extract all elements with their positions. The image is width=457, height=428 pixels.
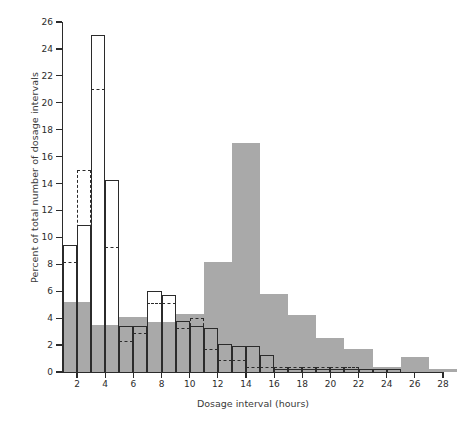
y-tick-mark (56, 183, 62, 184)
y-tick-mark (56, 48, 62, 49)
bar-gray (63, 302, 91, 372)
y-tick-label: 0 (20, 367, 53, 377)
bar-solid-outline (63, 245, 77, 372)
y-tick-label: 16 (20, 152, 53, 162)
bar-solid-outline (162, 295, 176, 372)
y-axis-line (62, 22, 63, 373)
bar-solid-outline (105, 180, 119, 373)
y-tick-mark (56, 237, 62, 238)
y-tick-label: 4 (20, 313, 53, 323)
y-tick-mark (56, 156, 62, 157)
x-tick-mark (274, 373, 275, 378)
bar-solid-outline (91, 35, 105, 372)
x-tick-label: 4 (93, 379, 117, 389)
y-tick-label: 8 (20, 259, 53, 269)
bar-solid-outline (77, 225, 91, 372)
x-tick-mark (161, 373, 162, 378)
bar-solid-outline (190, 326, 204, 372)
x-tick-mark (302, 373, 303, 378)
y-tick-mark (56, 129, 62, 130)
bar-dashed-outline (119, 341, 133, 372)
y-tick-label: 20 (20, 98, 53, 108)
x-tick-label: 10 (178, 379, 202, 389)
y-tick-mark (56, 21, 62, 22)
y-tick-label: 12 (20, 205, 53, 215)
x-tick-label: 24 (375, 379, 399, 389)
bar-gray (401, 357, 429, 372)
x-tick-mark (133, 373, 134, 378)
y-tick-mark (56, 102, 62, 103)
y-tick-mark (56, 75, 62, 76)
x-tick-label: 20 (318, 379, 342, 389)
x-tick-mark (245, 373, 246, 378)
bar-gray (147, 322, 175, 372)
bar-gray (176, 314, 204, 372)
y-tick-label: 18 (20, 125, 53, 135)
bar-dashed-outline (190, 318, 204, 372)
bar-dashed-outline (63, 262, 77, 372)
y-tick-label: 14 (20, 179, 53, 189)
y-tick-label: 10 (20, 232, 53, 242)
bar-dashed-outline (105, 247, 119, 372)
x-tick-mark (189, 373, 190, 378)
y-tick-label: 6 (20, 286, 53, 296)
bar-solid-outline (218, 344, 232, 372)
bar-dashed-outline (204, 349, 218, 372)
bar-solid-outline (176, 321, 190, 372)
y-tick-mark (56, 318, 62, 319)
x-tick-label: 28 (431, 379, 455, 389)
y-tick-mark (56, 210, 62, 211)
x-tick-label: 14 (234, 379, 258, 389)
x-tick-label: 18 (290, 379, 314, 389)
bar-dashed-outline (176, 328, 190, 372)
bar-dashed-outline (77, 170, 91, 372)
bar-solid-outline (133, 326, 147, 372)
y-tick-label: 2 (20, 340, 53, 350)
x-axis-label: Dosage interval (hours) (63, 398, 443, 409)
x-tick-mark (386, 373, 387, 378)
x-tick-label: 22 (347, 379, 371, 389)
x-tick-mark (358, 373, 359, 378)
bar-gray (316, 338, 344, 372)
bar-dashed-outline (147, 303, 161, 372)
bar-dashed-outline (133, 333, 147, 372)
bar-dashed-outline (232, 360, 246, 372)
x-tick-mark (414, 373, 415, 378)
bar-solid-outline (147, 291, 161, 372)
bar-solid-outline (232, 346, 246, 372)
x-tick-mark (76, 373, 77, 378)
y-tick-label: 22 (20, 71, 53, 81)
x-tick-mark (105, 373, 106, 378)
bar-solid-outline (260, 355, 274, 373)
bar-gray (91, 325, 119, 372)
bar-solid-outline (119, 326, 133, 372)
x-tick-label: 8 (150, 379, 174, 389)
bar-dashed-outline (162, 303, 176, 372)
x-tick-label: 12 (206, 379, 230, 389)
x-tick-mark (442, 373, 443, 378)
bar-gray (232, 143, 260, 372)
bar-gray (344, 349, 372, 372)
bar-solid-outline (246, 346, 260, 372)
bar-gray (260, 294, 288, 372)
y-tick-mark (56, 371, 62, 372)
x-tick-label: 2 (65, 379, 89, 389)
x-tick-mark (217, 373, 218, 378)
y-tick-mark (56, 291, 62, 292)
y-tick-label: 26 (20, 17, 53, 27)
bar-dashed-outline (91, 89, 105, 372)
y-tick-mark (56, 264, 62, 265)
x-tick-label: 6 (121, 379, 145, 389)
bar-gray (119, 317, 147, 372)
x-tick-label: 16 (262, 379, 286, 389)
x-tick-label: 26 (403, 379, 427, 389)
y-tick-mark (56, 344, 62, 345)
bar-solid-outline (204, 328, 218, 372)
y-tick-label: 24 (20, 44, 53, 54)
bar-dashed-outline (218, 360, 232, 372)
x-tick-mark (330, 373, 331, 378)
